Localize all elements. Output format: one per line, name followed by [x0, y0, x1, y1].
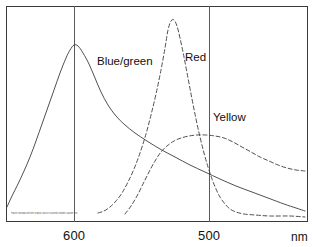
chart-plot-area — [0, 0, 314, 247]
chart-background — [0, 0, 314, 247]
series-label-yellow: Yellow — [213, 112, 246, 124]
xtick-label-500: 500 — [198, 229, 220, 242]
spectral-response-chart: 600 500 nm Blue/green Red Yellow Figure … — [0, 0, 314, 247]
xtick-label-600: 600 — [63, 229, 85, 242]
series-label-blue-green: Blue/green — [97, 56, 153, 68]
x-axis-unit-label: nm — [291, 231, 308, 243]
micro-caption-text: Figure reproduced from original source s… — [11, 212, 115, 215]
series-label-red: Red — [185, 52, 206, 64]
